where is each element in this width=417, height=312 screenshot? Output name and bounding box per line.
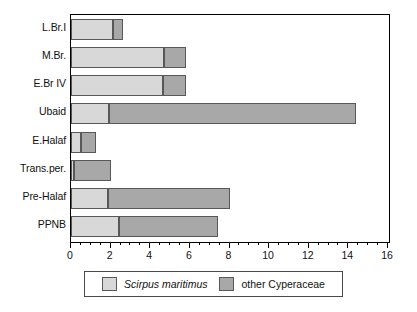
chart-legend: Scirpus maritimus other Cyperaceae <box>84 271 343 297</box>
x-tick-major <box>70 242 71 248</box>
bar-segment <box>109 103 357 124</box>
legend-item-other-cyperaceae: other Cyperaceae <box>219 277 324 291</box>
x-tick-minor <box>219 242 220 245</box>
x-tick-minor <box>298 242 299 245</box>
x-tick-label: 8 <box>214 249 244 262</box>
x-tick-label: 2 <box>95 249 125 262</box>
x-tick-minor <box>318 242 319 245</box>
x-tick-minor <box>377 242 378 245</box>
x-tick-label: 6 <box>174 249 204 262</box>
x-tick-minor <box>337 242 338 245</box>
category-label: Pre-Halaf <box>0 191 66 202</box>
x-tick-major <box>387 242 388 248</box>
x-tick-major <box>149 242 150 248</box>
x-tick-minor <box>367 242 368 245</box>
bar-segment <box>81 132 96 153</box>
x-tick-minor <box>129 242 130 245</box>
x-tick-label: 16 <box>372 249 402 262</box>
x-tick-minor <box>120 242 121 245</box>
x-tick-minor <box>169 242 170 245</box>
x-tick-minor <box>328 242 329 245</box>
x-tick-minor <box>90 242 91 245</box>
x-tick-major <box>268 242 269 248</box>
bar-segment <box>108 188 231 209</box>
x-tick-major <box>308 242 309 248</box>
x-tick-major <box>110 242 111 248</box>
bar-segment <box>164 47 186 68</box>
x-tick-minor <box>248 242 249 245</box>
legend-swatch-other-cyperaceae <box>219 277 234 291</box>
x-tick-minor <box>238 242 239 245</box>
x-tick-minor <box>278 242 279 245</box>
x-tick-label: 0 <box>55 249 85 262</box>
bar-segment <box>71 132 81 153</box>
bar-segment <box>71 19 113 40</box>
legend-item-scirpus-maritimus: Scirpus maritimus <box>102 277 207 291</box>
x-tick-minor <box>357 242 358 245</box>
x-tick-label: 4 <box>134 249 164 262</box>
category-label: Ubaid <box>0 106 66 117</box>
x-tick-minor <box>209 242 210 245</box>
bar-segment <box>71 216 119 237</box>
x-tick-minor <box>100 242 101 245</box>
legend-label-other-cyperaceae: other Cyperaceae <box>241 278 324 290</box>
x-tick-major <box>347 242 348 248</box>
category-label: PPNB <box>0 219 66 230</box>
bar-segment <box>113 19 123 40</box>
x-tick-minor <box>80 242 81 245</box>
bar-segment <box>71 188 108 209</box>
category-label: E.Halaf <box>0 135 66 146</box>
x-tick-minor <box>288 242 289 245</box>
bars-layer <box>71 15 388 241</box>
x-axis-tick-labels: 0246810121416 <box>0 249 417 265</box>
category-axis: L.Br.IM.Br.E.Br IVUbaidE.HalafTrans.per.… <box>0 14 66 242</box>
bar-segment <box>74 160 111 181</box>
bar-segment <box>71 75 163 96</box>
x-tick-minor <box>258 242 259 245</box>
bar-segment <box>71 47 164 68</box>
x-tick-major <box>229 242 230 248</box>
category-label: E.Br IV <box>0 78 66 89</box>
x-tick-major <box>189 242 190 248</box>
category-label: Trans.per. <box>0 163 66 174</box>
legend-swatch-scirpus-maritimus <box>102 277 117 291</box>
x-tick-label: 10 <box>253 249 283 262</box>
stacked-bar-chart: L.Br.IM.Br.E.Br IVUbaidE.HalafTrans.per.… <box>0 0 417 312</box>
bar-segment <box>71 103 109 124</box>
x-tick-label: 12 <box>293 249 323 262</box>
legend-label-scirpus-maritimus: Scirpus maritimus <box>124 278 207 290</box>
bar-segment <box>119 216 218 237</box>
category-label: L.Br.I <box>0 22 66 33</box>
category-label: M.Br. <box>0 50 66 61</box>
x-tick-minor <box>199 242 200 245</box>
x-tick-label: 14 <box>332 249 362 262</box>
x-tick-minor <box>159 242 160 245</box>
x-tick-minor <box>179 242 180 245</box>
x-tick-minor <box>139 242 140 245</box>
bar-segment <box>163 75 186 96</box>
